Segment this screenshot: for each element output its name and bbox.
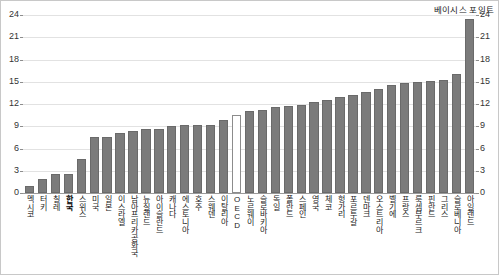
y-tick-label-right-21: 21: [480, 32, 490, 41]
x-axis-label-체코: 체코: [323, 195, 331, 210]
x-axis-label-핀란드: 핀란드: [426, 195, 434, 218]
x-axis-label-뉴질랜드: 뉴질랜드: [142, 195, 150, 226]
bar-덴마크[interactable]: [361, 92, 370, 193]
bar-slot: [230, 15, 243, 193]
x-label-slot: 독일: [269, 195, 282, 275]
x-axis-label-스웨덴: 스웨덴: [207, 195, 215, 218]
x-label-slot: 슬로바키아: [256, 195, 269, 275]
x-axis-label-노르웨이: 노르웨이: [245, 195, 253, 226]
bar-핀란드[interactable]: [426, 81, 435, 193]
bar-포르투갈[interactable]: [348, 95, 357, 193]
x-label-slot: 아일랜드: [463, 195, 476, 275]
y-tick-label-left-15: 15: [9, 77, 19, 86]
x-label-slot: 멕시코: [23, 195, 36, 275]
bar-뉴질랜드[interactable]: [141, 129, 150, 193]
bar-slot: [114, 15, 127, 193]
x-axis-label-그리스: 그리스: [439, 195, 447, 218]
bar-스웨덴[interactable]: [206, 125, 215, 193]
bar-아이슬란드[interactable]: [154, 129, 163, 193]
bar-slot: [372, 15, 385, 193]
x-axis-label-호주: 호주: [194, 195, 202, 210]
tick-mark-right-3: [476, 171, 479, 172]
bar-미국[interactable]: [90, 137, 99, 193]
bar-폴란드[interactable]: [284, 106, 293, 193]
bar-노르웨이[interactable]: [245, 111, 254, 193]
x-label-slot: 폴란드: [282, 195, 295, 275]
y-tick-label-right-3: 3: [480, 166, 485, 175]
bar-독일[interactable]: [271, 107, 280, 193]
bar-아일랜드[interactable]: [465, 19, 474, 193]
bar-프랑스[interactable]: [400, 83, 409, 193]
x-axis-label-스페인: 스페인: [297, 195, 305, 218]
x-label-slot: 이탈리아: [217, 195, 230, 275]
bar-슬로바키아[interactable]: [258, 110, 267, 193]
y-tick-label-right-9: 9: [480, 121, 485, 130]
x-label-slot: 일본: [101, 195, 114, 275]
bar-그리스[interactable]: [439, 80, 448, 193]
tick-mark-right-0: [476, 193, 479, 194]
bar-한국[interactable]: [64, 174, 73, 193]
y-tick-label-right-12: 12: [480, 99, 490, 108]
bar-스페인[interactable]: [297, 105, 306, 193]
x-axis-label-이탈리아: 이탈리아: [219, 195, 227, 226]
bar-룩셈부르크[interactable]: [413, 82, 422, 193]
y-tick-label-left-6: 6: [14, 144, 19, 153]
y-tick-label-left-0: 0: [14, 188, 19, 197]
bar-영국[interactable]: [309, 102, 318, 193]
x-label-slot: 한국: [62, 195, 75, 275]
tick-mark-right-21: [476, 37, 479, 38]
bar-에스토니아[interactable]: [180, 125, 189, 193]
x-label-slot: 오스트리아: [372, 195, 385, 275]
bar-slot: [49, 15, 62, 193]
bar-일본[interactable]: [102, 137, 111, 193]
bar-slot: [346, 15, 359, 193]
tick-mark-right-24: [476, 15, 479, 16]
bar-slot: [269, 15, 282, 193]
bar-캐나다[interactable]: [167, 126, 176, 193]
x-axis-labels: 멕시코터키칠레한국스위스미국일본이스라엘남아프리카공화국뉴질랜드아이슬란드캐나다…: [23, 195, 476, 275]
y-tick-label-left-9: 9: [14, 121, 19, 130]
x-label-slot: 노르웨이: [243, 195, 256, 275]
x-label-slot: 캐나다: [165, 195, 178, 275]
bar-slot: [23, 15, 36, 193]
bar-이탈리아[interactable]: [219, 120, 228, 193]
bar-벨기에[interactable]: [387, 85, 396, 193]
bar-스위스[interactable]: [77, 159, 86, 193]
bar-slot: [424, 15, 437, 193]
bar-series: [23, 15, 476, 193]
bar-호주[interactable]: [193, 125, 202, 193]
x-axis-label-한국: 한국: [64, 195, 72, 210]
bar-slot: [36, 15, 49, 193]
bar-slot: [88, 15, 101, 193]
bar-터키[interactable]: [38, 179, 47, 193]
x-axis-label-미국: 미국: [90, 195, 98, 210]
bar-slot: [437, 15, 450, 193]
bar-이스라엘[interactable]: [115, 133, 124, 193]
y-tick-label-left-18: 18: [9, 55, 19, 64]
bar-칠레[interactable]: [51, 174, 60, 193]
x-label-slot: 호주: [191, 195, 204, 275]
x-label-slot: 에스토니아: [178, 195, 191, 275]
bar-멕시코[interactable]: [25, 186, 34, 193]
x-label-slot: 미국: [88, 195, 101, 275]
bar-OECD[interactable]: [232, 115, 241, 193]
x-axis-label-폴란드: 폴란드: [284, 195, 292, 218]
bar-슬로베니아[interactable]: [452, 74, 461, 193]
bar-체코[interactable]: [322, 100, 331, 193]
bar-헝가리[interactable]: [335, 97, 344, 193]
tick-mark-right-15: [476, 82, 479, 83]
x-axis-label-포르투갈: 포르투갈: [349, 195, 357, 226]
bar-slot: [385, 15, 398, 193]
y-tick-label-right-18: 18: [480, 55, 490, 64]
x-axis-label-OECD: OECD: [232, 195, 240, 229]
x-axis-label-에스토니아: 에스토니아: [181, 195, 189, 234]
x-label-slot: 덴마크: [359, 195, 372, 275]
bar-slot: [411, 15, 424, 193]
x-label-slot: 핀란드: [424, 195, 437, 275]
bar-남아프리카공화국[interactable]: [128, 131, 137, 193]
x-label-slot: 벨기에: [385, 195, 398, 275]
x-axis-label-슬로베니아: 슬로베니아: [452, 195, 460, 234]
y-tick-label-right-6: 6: [480, 144, 485, 153]
bar-오스트리아[interactable]: [374, 89, 383, 193]
tick-mark-right-18: [476, 60, 479, 61]
